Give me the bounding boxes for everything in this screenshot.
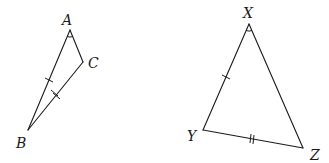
label-b: B bbox=[15, 135, 26, 151]
triangle-xyz: X Y Z bbox=[187, 5, 320, 163]
label-a: A bbox=[60, 12, 72, 28]
side-ac bbox=[70, 30, 83, 62]
label-y: Y bbox=[187, 128, 198, 144]
angle-mark-x bbox=[246, 31, 252, 32]
side-yz bbox=[203, 130, 303, 148]
label-z: Z bbox=[309, 147, 320, 163]
label-c: C bbox=[88, 55, 99, 71]
triangle-abc: A B C bbox=[15, 12, 99, 151]
side-xz bbox=[249, 24, 303, 148]
tick-xy bbox=[222, 75, 230, 79]
label-x: X bbox=[242, 5, 254, 21]
angle-mark-a bbox=[67, 37, 72, 38]
side-bc bbox=[28, 62, 83, 130]
triangle-diagram: A B C X Y Z bbox=[0, 0, 329, 163]
